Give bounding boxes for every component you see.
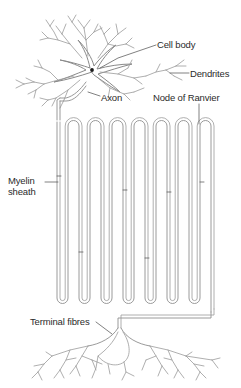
leader-terminal-fibres — [96, 322, 112, 334]
myelin-sheath-serpentine — [57, 118, 214, 312]
axon-terminal-connector — [118, 309, 214, 328]
label-node-of-ranvier: Node of Ranvier — [153, 93, 219, 104]
label-myelin-sheath-line2: sheath — [8, 186, 36, 197]
nucleus-dot — [90, 68, 94, 72]
label-myelin-sheath: Myelinsheath — [8, 176, 36, 197]
leader-axon — [88, 92, 100, 96]
terminal-fibres-group — [32, 328, 220, 380]
label-dendrites: Dendrites — [190, 69, 229, 80]
cell-body-soma — [54, 40, 132, 92]
axon-segment — [57, 82, 86, 120]
neuron-drawing-svg: .ln { fill:none; stroke:#8f8f8f; stroke-… — [0, 0, 241, 388]
label-axon: Axon — [101, 93, 122, 104]
label-terminal-fibres: Terminal fibres — [30, 317, 90, 328]
label-cell-body: Cell body — [157, 40, 195, 51]
neuron-diagram: .ln { fill:none; stroke:#8f8f8f; stroke-… — [0, 0, 241, 388]
label-myelin-sheath-line1: Myelin — [8, 175, 35, 186]
